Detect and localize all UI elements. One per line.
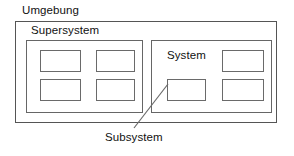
diagram-canvas: Umgebung Supersystem System Subsystem	[0, 0, 294, 156]
system-unit-r1c2	[222, 50, 264, 72]
supersystem-unit-r2c1	[40, 79, 81, 101]
supersystem-label: Supersystem	[31, 24, 99, 37]
supersystem-unit-r2c2	[96, 79, 135, 101]
system-label: System	[167, 49, 206, 62]
environment-label: Umgebung	[22, 4, 79, 17]
subsystem-label: Subsystem	[105, 131, 163, 144]
supersystem-unit-r1c2	[96, 50, 135, 72]
system-unit-r2c2	[222, 79, 264, 101]
system-unit-r2c1	[167, 79, 206, 101]
supersystem-unit-r1c1	[40, 50, 81, 72]
